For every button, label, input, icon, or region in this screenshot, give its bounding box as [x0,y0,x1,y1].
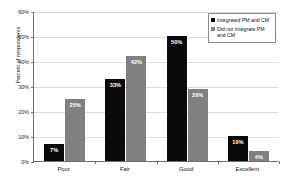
x-axis-tick-mark [95,161,96,164]
y-axis-tick-mark [31,62,34,63]
bar-poor-series1[interactable]: 25% [65,99,85,162]
bar-poor-series0[interactable]: 7% [44,144,64,162]
bar-value-label: 25% [65,102,85,108]
y-axis-tick-label: 60% [18,9,29,15]
bar-value-label: 50% [167,39,187,45]
bar-group: 33%42% [105,12,146,161]
legend-label-not-integrated: Did not Integrate PM and CM [217,26,272,38]
bar-group: 7%25% [44,12,85,161]
legend-item-not-integrated[interactable]: Did not Integrate PM and CM [211,26,272,38]
y-axis-tick-label: 30% [18,84,29,90]
y-axis-tick-label: 0% [21,159,29,165]
x-axis-tick-label-poor: Poor [58,166,70,172]
y-axis-tick-mark [31,37,34,38]
bar-value-label: 42% [126,59,146,65]
y-axis-tick-mark [31,12,34,13]
y-axis-tick-label: 50% [18,34,29,40]
legend-swatch-black-icon [211,18,215,22]
y-axis-tick-label: 20% [18,109,29,115]
y-axis-tick-mark [31,137,34,138]
legend-item-integrated[interactable]: Integrated PM and CM [211,17,272,23]
y-axis-tick-mark [31,87,34,88]
x-axis-tick-label-good: Good [179,166,193,172]
bar-value-label: 10% [228,139,248,145]
bar-good-series1[interactable]: 29% [188,89,208,162]
bar-value-label: 33% [105,82,125,88]
y-axis-tick-mark [31,162,34,163]
y-axis-tick-label: 10% [18,134,29,140]
y-axis-tick-label: 40% [18,59,29,65]
x-axis-tick-label-excellent: Excellent [236,166,260,172]
x-axis-tick-label-fair: Fair [120,166,130,172]
bar-value-label: 4% [249,154,269,160]
bar-fair-series0[interactable]: 33% [105,79,125,162]
bar-excellent-series1[interactable]: 4% [249,151,269,161]
bar-good-series0[interactable]: 50% [167,36,187,161]
bar-value-label: 7% [44,147,64,153]
bar-fair-series1[interactable]: 42% [126,56,146,161]
x-axis-tick-mark [157,161,158,164]
chart-legend: Integrated PM and CM Did not Integrate P… [208,13,276,43]
bar-chart: Percent of respondents 0%10%20%30%40%50%… [0,0,285,183]
y-axis-title: Percent of respondents [15,5,21,105]
legend-swatch-gray-icon [211,27,215,31]
bar-value-label: 29% [188,92,208,98]
x-axis-tick-mark [218,161,219,164]
x-axis-tick-mark [279,161,280,164]
legend-label-integrated: Integrated PM and CM [217,17,269,23]
bar-group: 50%29% [167,12,208,161]
y-axis-tick-mark [31,112,34,113]
bar-excellent-series0[interactable]: 10% [228,136,248,161]
